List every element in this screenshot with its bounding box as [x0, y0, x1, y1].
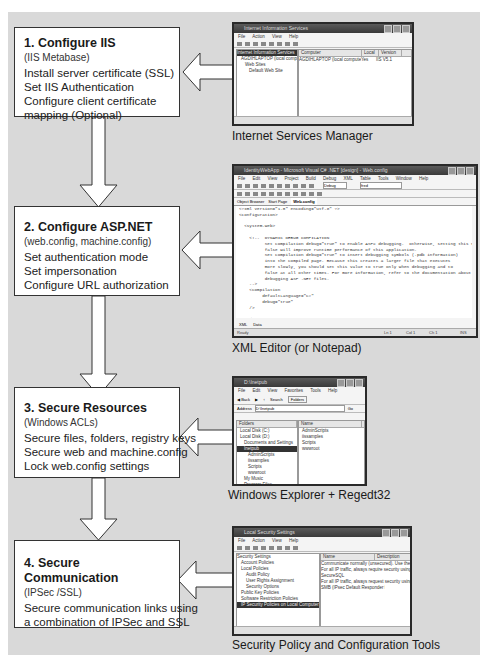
menu-help[interactable]: Help: [289, 34, 298, 39]
step-line: Install server certificate (SSL): [24, 66, 170, 80]
menu-item[interactable]: Help: [328, 388, 337, 393]
menu-item[interactable]: File: [238, 388, 245, 393]
menu-item[interactable]: File: [238, 538, 245, 543]
menu-item[interactable]: Tools: [310, 388, 321, 393]
menu-bar: File Edit View Favorites Tools Help: [234, 387, 365, 394]
left-arrow-2: [182, 231, 233, 269]
window-titlebar: IdentityWebApp - Microsoft Visual C# .NE…: [234, 166, 476, 175]
policy-list: Name Description Client (Respond Only)Co…: [320, 553, 412, 629]
menu-action[interactable]: Action: [252, 34, 265, 39]
step-title: 3. Secure Resources: [24, 401, 170, 416]
column-header[interactable]: Version: [379, 50, 402, 56]
maximize-icon[interactable]: [391, 529, 399, 537]
step-4-box: 4. Secure Communication (IPSec /SSL) Sec…: [14, 540, 180, 628]
cell: IIS V5.1: [376, 57, 392, 63]
menu-file[interactable]: File: [238, 34, 245, 39]
window-title: Internet Information Services: [244, 25, 308, 31]
menu-item[interactable]: Tools: [378, 176, 389, 181]
column-header[interactable]: Local: [362, 50, 379, 56]
step-1-box: 1. Configure IIS (IIS Metabase) Install …: [14, 27, 180, 117]
tree-pane: Security Settings Account Policies Local…: [236, 553, 320, 629]
minimize-icon[interactable]: [337, 379, 345, 387]
search-button[interactable]: Search: [270, 397, 283, 402]
tab-object-browser[interactable]: Object Browser: [237, 198, 264, 205]
list-row[interactable]: AGDIHLAPTOP (local computer) Yes IIS V5.…: [299, 57, 411, 63]
left-arrow-1: [183, 53, 233, 91]
toolbar: [234, 40, 412, 48]
status-bar: [234, 116, 412, 124]
close-icon[interactable]: [400, 529, 408, 537]
back-button[interactable]: ◀ Back: [237, 397, 250, 402]
tree-item[interactable]: Default Web Site: [237, 68, 297, 74]
explorer-toolbar: ◀ Back ▶ ↑ Search Folders: [234, 394, 365, 405]
menu-item[interactable]: Project: [285, 176, 299, 181]
folders-button[interactable]: Folders: [288, 396, 307, 403]
status-text: Ready: [237, 330, 249, 335]
menu-item[interactable]: View: [272, 538, 282, 543]
go-button[interactable]: Go: [348, 406, 353, 411]
maximize-icon[interactable]: [457, 167, 465, 175]
toolbar-2: [234, 190, 476, 198]
tab-start-page[interactable]: Start Page: [268, 198, 287, 205]
tab-web-config[interactable]: Web.config: [291, 198, 316, 205]
name-column-header[interactable]: Name: [299, 421, 362, 427]
step-line: Secure communication links using: [24, 601, 170, 615]
menu-item[interactable]: Help: [419, 176, 428, 181]
tool-caption: Windows Explorer + Regedt32: [228, 488, 390, 502]
maximize-icon[interactable]: [393, 25, 401, 33]
close-icon[interactable]: [402, 25, 410, 33]
menu-item[interactable]: Action: [252, 538, 265, 543]
step-line: a combination of IPSec and SSL: [24, 615, 170, 629]
folders-pane: Folders Local Disk (C:) Local Disk (D:) …: [236, 420, 298, 486]
code-editor[interactable]: <?xml version="1.0" encoding="utf-8" ?> …: [236, 206, 472, 318]
menu-item[interactable]: Build: [306, 176, 316, 181]
tab-data-view[interactable]: Data: [253, 321, 261, 328]
menu-item[interactable]: Help: [289, 538, 298, 543]
step-2-box: 2. Configure ASP.NET (web.config, machin…: [14, 206, 180, 296]
menu-item[interactable]: Table: [360, 176, 371, 181]
menu-item[interactable]: XML: [344, 176, 353, 181]
minimize-icon[interactable]: [382, 529, 390, 537]
minimize-icon[interactable]: [384, 25, 392, 33]
down-arrow-3: [80, 478, 117, 540]
close-icon[interactable]: [466, 167, 474, 175]
tab-xml-view[interactable]: XML: [239, 321, 247, 328]
close-icon[interactable]: [355, 379, 363, 387]
window-title: IdentityWebApp - Microsoft Visual C# .NE…: [244, 167, 388, 173]
file-item[interactable]: wwwroot: [299, 446, 364, 452]
menu-item[interactable]: View: [268, 388, 278, 393]
menu-view[interactable]: View: [272, 34, 282, 39]
solution-config-dropdown[interactable]: Debug: [323, 182, 347, 189]
column-header[interactable]: Description: [375, 554, 411, 560]
address-input[interactable]: D:\Inetpub: [255, 405, 345, 412]
column-header[interactable]: Name: [321, 554, 375, 560]
window-title: D:\Inetpub: [244, 379, 267, 385]
document-tabs: Object Browser Start Page Web.config: [234, 198, 476, 206]
menu-item[interactable]: Edit: [253, 388, 261, 393]
step-subtitle: (IIS Metabase): [24, 51, 170, 64]
menu-item[interactable]: Edit: [253, 176, 261, 181]
maximize-icon[interactable]: [346, 379, 354, 387]
up-icon[interactable]: ↑: [263, 397, 265, 402]
left-arrow-4: [178, 561, 233, 599]
menu-bar: File Action View Help: [234, 33, 412, 40]
tree-item[interactable]: Program Files: [237, 482, 297, 486]
minimize-icon[interactable]: [448, 167, 456, 175]
find-dropdown[interactable]: fred: [360, 182, 402, 189]
step-line: Lock web.config settings: [24, 459, 170, 473]
tool-caption: XML Editor (or Notepad): [232, 341, 362, 355]
tree-item[interactable]: IP Security Policies on Local Computer: [237, 602, 319, 608]
step-line: Configure client certificate: [24, 94, 170, 108]
forward-icon[interactable]: ▶: [255, 397, 258, 402]
menu-item[interactable]: Window: [396, 176, 412, 181]
code-text: <?xml version="1.0" encoding="utf-8" ?> …: [236, 206, 472, 318]
column-header[interactable]: Computer: [299, 50, 362, 56]
step-title: 2. Configure ASP.NET: [24, 220, 170, 235]
window-title: Local Security Settings: [244, 529, 295, 535]
view-tabs: XML Data: [236, 321, 262, 328]
list-row[interactable]: SMB (IPsec Default Responder for Exti...: [321, 585, 411, 591]
menu-item[interactable]: Debug: [323, 176, 336, 181]
menu-item[interactable]: File: [238, 176, 245, 181]
menu-item[interactable]: Favorites: [285, 388, 304, 393]
menu-item[interactable]: View: [268, 176, 278, 181]
